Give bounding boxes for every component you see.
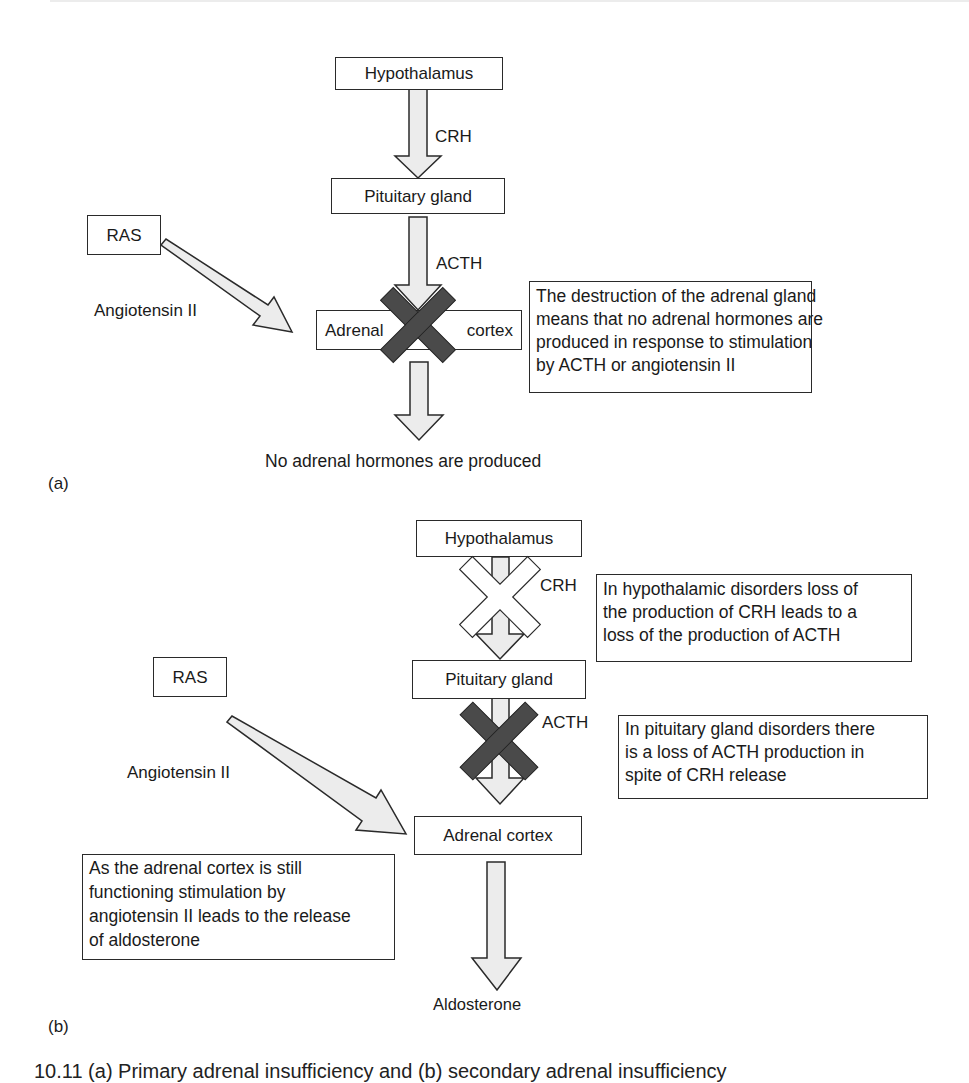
note-line: is a loss of ACTH production in [625,741,921,764]
arrow-acth-a [395,217,441,310]
node-ras-b: RAS [153,657,227,697]
note-line: of aldosterone [89,928,388,952]
note-line: functioning stimulation by [89,880,388,904]
node-label: Hypothalamus [445,530,554,547]
arrow-angiotensin-b [227,716,406,834]
note-line: by ACTH or angiotensin II [536,354,805,377]
note-line: angiotensin II leads to the release [89,904,388,928]
node-label: RAS [173,669,208,686]
node-ras-a: RAS [87,215,161,255]
note-line: As the adrenal cortex is still [89,856,388,880]
node-label-right: cortex [467,322,513,339]
node-label-left: Adrenal [325,322,384,339]
node-label: Adrenal cortex [443,827,553,844]
node-hypothalamus-b: Hypothalamus [416,520,582,557]
node-label: RAS [107,227,142,244]
note-line: The destruction of the adrenal gland [536,285,805,308]
arrow-label-crh-a: CRH [435,127,472,147]
panel-label-b: (b) [48,1017,69,1037]
outcome-label-a: No adrenal hormones are produced [265,451,541,472]
arrow-label-acth-b: ACTH [542,713,588,733]
node-label: Pituitary gland [445,671,553,688]
note-line: In hypothalamic disorders loss of [603,578,905,601]
arrow-acth-b [476,698,524,804]
note-line: loss of the production of ACTH [603,624,905,647]
note-hypothalamic-b: In hypothalamic disorders loss of the pr… [596,574,912,662]
note-line: the production of CRH leads to a [603,601,905,624]
node-adrenal-cortex-a: Adrenal cortex [316,310,522,350]
note-destruction-a: The destruction of the adrenal gland mea… [529,281,812,393]
arrow-label-angiotensin-a: Angiotensin II [94,301,197,321]
arrow-label-crh-b: CRH [540,576,577,596]
note-adrenal-b: As the adrenal cortex is still functioni… [82,854,395,960]
node-pituitary-a: Pituitary gland [331,178,505,214]
note-line: In pituitary gland disorders there [625,718,921,741]
arrow-label-angiotensin-b: Angiotensin II [127,763,230,783]
node-adrenal-cortex-b: Adrenal cortex [414,816,582,855]
figure-caption-partial: 10.11 (a) Primary adrenal insufficiency … [34,1060,727,1083]
node-hypothalamus-a: Hypothalamus [335,57,503,90]
arrow-label-acth-a: ACTH [436,254,482,274]
arrow-crh-b [476,557,524,659]
node-label: Hypothalamus [365,65,474,82]
node-label: Pituitary gland [364,188,472,205]
note-line: means that no adrenal hormones are [536,308,805,331]
panel-label-a: (a) [48,474,69,494]
outcome-label-b: Aldosterone [433,995,521,1014]
node-pituitary-b: Pituitary gland [412,660,586,699]
note-pituitary-b: In pituitary gland disorders there is a … [618,715,928,799]
arrow-output-b [472,862,521,990]
note-line: spite of CRH release [625,764,921,787]
note-line: produced in response to stimulation [536,331,805,354]
arrow-output-a [395,362,443,440]
